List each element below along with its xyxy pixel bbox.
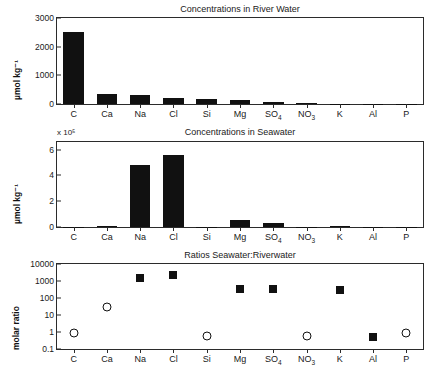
- figure-seawater-riverwater-comparison: Concentrations in River Water µmol kg⁻¹ …: [0, 0, 430, 369]
- x-tick-mark: [173, 227, 174, 231]
- x-tick-mark: [373, 104, 374, 108]
- ratios-marker-square: [369, 333, 377, 341]
- ratios-x-tick-label: Cl: [169, 354, 178, 364]
- seawater-x-tick-label: Si: [203, 232, 211, 242]
- seawater-y-tick-label: 6: [49, 145, 54, 155]
- x-tick-mark: [173, 349, 174, 353]
- river-water-x-tick-label: Si: [203, 109, 211, 119]
- ratios-marker-square: [236, 285, 244, 293]
- x-tick-mark: [74, 349, 75, 353]
- river-water-x-tick-label: P: [403, 109, 409, 119]
- x-tick-mark: [273, 227, 274, 231]
- seawater-y-tick-label: 0: [49, 222, 54, 232]
- river-water-y-tick-label: 3000: [35, 13, 54, 23]
- x-tick-mark: [273, 349, 274, 353]
- ratios-marker-circle: [402, 328, 411, 337]
- x-tick-mark: [173, 104, 174, 108]
- x-tick-mark: [406, 104, 407, 108]
- ratios-y-tick-label: 100: [40, 293, 54, 303]
- y-tick-mark: [57, 18, 61, 19]
- seawater-x-tick-label: Cl: [169, 232, 178, 242]
- y-tick-mark: [57, 227, 61, 228]
- x-tick-mark: [373, 227, 374, 231]
- ratios-y-tick-label: 1000: [35, 276, 54, 286]
- seawater-x-tick-label: K: [337, 232, 343, 242]
- ratios-x-tick-label: Al: [369, 354, 377, 364]
- ratios-marker-circle: [102, 303, 111, 312]
- seawater-x-tick-label: Al: [369, 232, 377, 242]
- river-water-y-tick-label: 1000: [35, 70, 54, 80]
- ratios-marker-square: [169, 271, 177, 279]
- x-tick-mark: [240, 349, 241, 353]
- x-tick-mark: [406, 227, 407, 231]
- river-water-bar: [97, 94, 118, 104]
- ratios-marker-square: [269, 285, 277, 293]
- x-tick-mark: [340, 104, 341, 108]
- x-tick-mark: [240, 104, 241, 108]
- river-water-bar: [130, 95, 151, 104]
- river-water-y-tick-label: 2000: [35, 42, 54, 52]
- river-water-x-tick-label: C: [70, 109, 77, 119]
- x-tick-mark: [140, 104, 141, 108]
- river-water-x-tick-label: Mg: [234, 109, 247, 119]
- seawater-bar: [163, 155, 184, 227]
- x-tick-mark: [406, 349, 407, 353]
- x-tick-mark: [340, 227, 341, 231]
- y-tick-mark: [57, 46, 61, 47]
- seawater-x-tick-label: Ca: [101, 232, 113, 242]
- ratios-y-tick-label: 10000: [30, 259, 54, 269]
- river-water-x-tick-label: SO4: [265, 109, 282, 121]
- ratios-x-tick-label: P: [403, 354, 409, 364]
- x-tick-mark: [74, 104, 75, 108]
- x-tick-mark: [207, 227, 208, 231]
- ratios-y-tick-label: 1: [49, 327, 54, 337]
- seawater-x-tick-label: NO3: [298, 232, 315, 244]
- x-tick-mark: [340, 349, 341, 353]
- y-tick-mark: [57, 264, 61, 265]
- river-water-x-tick-label: Na: [134, 109, 146, 119]
- ratios-x-tick-label: K: [337, 354, 343, 364]
- y-axis-label-river-water: µmol kg⁻¹: [12, 60, 22, 100]
- seawater-bar: [230, 220, 251, 227]
- y-tick-mark: [57, 201, 61, 202]
- chart-panel-ratios: Ratios Seawater:Riverwater molar ratio 0…: [0, 246, 430, 369]
- river-water-x-tick-label: Cl: [169, 109, 178, 119]
- y-tick-mark: [57, 315, 61, 316]
- seawater-bar: [130, 165, 151, 227]
- river-water-x-tick-label: K: [337, 109, 343, 119]
- seawater-x-tick-label: Na: [134, 232, 146, 242]
- y-tick-mark: [57, 75, 61, 76]
- ratios-y-tick-label: 0.1: [42, 344, 54, 354]
- y-tick-mark: [57, 104, 61, 105]
- ratios-x-tick-label: Na: [134, 354, 146, 364]
- seawater-x-tick-label: C: [70, 232, 77, 242]
- y-axis-label-ratios: molar ratio: [11, 306, 21, 350]
- plot-area-river-water: 0100020003000CCaNaClSiMgSO4NO3KAlP: [56, 17, 424, 105]
- x-tick-mark: [307, 227, 308, 231]
- ratios-x-tick-label: Mg: [234, 354, 247, 364]
- y-tick-mark: [57, 349, 61, 350]
- plot-area-seawater: 0246CCaNaClSiMgSO4NO3KAlP: [56, 141, 424, 228]
- x-tick-mark: [207, 104, 208, 108]
- x-tick-mark: [373, 349, 374, 353]
- river-water-x-tick-label: Al: [369, 109, 377, 119]
- seawater-x-tick-label: P: [403, 232, 409, 242]
- y-axis-exponent-label-seawater: x 10⁵: [57, 128, 75, 137]
- ratios-x-tick-label: C: [70, 354, 77, 364]
- chart-title-ratios: Ratios Seawater:Riverwater: [56, 250, 424, 260]
- x-tick-mark: [107, 104, 108, 108]
- ratios-marker-square: [136, 274, 144, 282]
- river-water-x-tick-label: NO3: [298, 109, 315, 121]
- ratios-y-tick-label: 10: [45, 310, 54, 320]
- ratios-marker-circle: [69, 328, 78, 337]
- chart-title-seawater: Concentrations in Seawater: [56, 127, 424, 137]
- seawater-y-tick-label: 4: [49, 170, 54, 180]
- x-tick-mark: [140, 227, 141, 231]
- plot-area-ratios: 0.1110100100010000CCaNaClSiMgSO4NO3KAlP: [56, 263, 424, 350]
- ratios-x-tick-label: SO4: [265, 354, 282, 366]
- x-tick-mark: [107, 349, 108, 353]
- x-tick-mark: [240, 227, 241, 231]
- seawater-x-tick-label: Mg: [234, 232, 247, 242]
- river-water-y-tick-label: 0: [49, 99, 54, 109]
- ratios-marker-circle: [202, 332, 211, 341]
